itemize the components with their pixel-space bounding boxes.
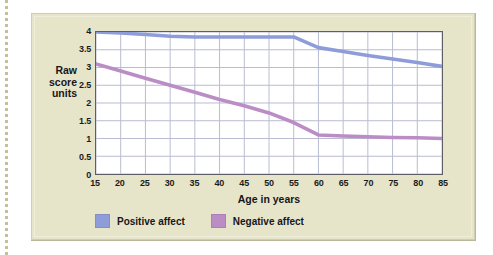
- x-tick-label: 60: [314, 177, 324, 189]
- y-tick-label: 3: [86, 63, 91, 72]
- x-axis-title: Age in years: [95, 193, 443, 205]
- y-tick-label: 4: [86, 27, 91, 36]
- dotted-margin-rule: [5, 0, 8, 255]
- legend-item-positive-affect[interactable]: Positive affect: [95, 214, 185, 228]
- x-tick-label: 40: [214, 177, 224, 189]
- x-tick-label: 20: [115, 177, 125, 189]
- x-tick-label: 65: [339, 177, 349, 189]
- x-tick-label: 70: [364, 177, 374, 189]
- legend-swatch-icon: [95, 214, 110, 228]
- series-line-positive-affect: [96, 32, 442, 66]
- x-tick-label: 25: [140, 177, 150, 189]
- x-tick-label: 85: [438, 177, 448, 189]
- legend-label: Positive affect: [117, 216, 185, 227]
- figure-panel: Raw score units 00.511.522.533.54 152025…: [31, 13, 476, 241]
- legend-item-negative-affect[interactable]: Negative affect: [211, 214, 304, 228]
- x-tick-label: 80: [413, 177, 423, 189]
- plot-area: [95, 31, 443, 175]
- x-tick-label: 50: [264, 177, 274, 189]
- x-tick-label: 55: [289, 177, 299, 189]
- x-tick-label: 75: [388, 177, 398, 189]
- chart-legend: Positive affectNegative affect: [95, 213, 455, 229]
- y-tick-label: 2: [86, 99, 91, 108]
- data-series-lines: [96, 32, 442, 174]
- x-tick-label: 45: [239, 177, 249, 189]
- x-tick-label: 30: [165, 177, 175, 189]
- y-tick-label: 3.5: [79, 45, 91, 54]
- y-tick-label: 0.5: [79, 153, 91, 162]
- series-line-negative-affect: [96, 64, 442, 139]
- x-tick-label: 15: [90, 177, 100, 189]
- y-tick-label: 2.5: [79, 81, 91, 90]
- y-tick-label: 1: [86, 135, 91, 144]
- y-axis-tick-labels: 00.511.522.533.54: [57, 31, 91, 175]
- legend-swatch-icon: [211, 214, 226, 228]
- x-axis-tick-labels: 152025303540455055606570758085: [95, 177, 443, 191]
- y-tick-label: 1.5: [79, 117, 91, 126]
- legend-label: Negative affect: [233, 216, 304, 227]
- x-tick-label: 35: [190, 177, 200, 189]
